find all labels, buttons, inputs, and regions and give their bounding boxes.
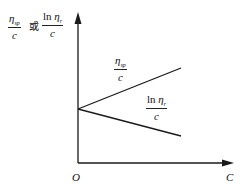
y-label-ln-eta-r-over-c: ln ηr c [42, 11, 63, 39]
y-label-or: 或 [29, 18, 39, 33]
x-axis-arrow-icon [222, 160, 234, 167]
series-label-ln-eta-r-over-c: ln ηr c [146, 94, 167, 122]
y-axis-arrow-icon [75, 12, 82, 24]
series-label-eta-sp-over-c: ηsp c [114, 55, 127, 83]
x-axis-label: C [226, 171, 233, 183]
origin-label: O [72, 171, 80, 183]
y-label-eta-sp-over-c: ηsp c [8, 13, 21, 41]
